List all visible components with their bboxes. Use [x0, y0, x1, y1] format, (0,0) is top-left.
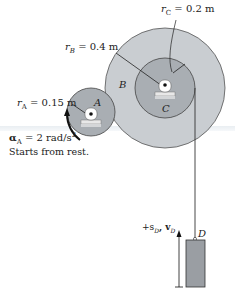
gear-c-label: C [162, 104, 170, 114]
start-note: Starts from rest. [9, 147, 89, 157]
radius-a-value: = 0.15 m [30, 97, 76, 108]
block-d-label: D [198, 229, 206, 239]
radius-b-value: = 0.4 m [78, 41, 118, 52]
radius-a-label: rA = 0.15 m [17, 98, 77, 111]
radius-c-label: rC = 0.2 m [161, 4, 214, 17]
gear-b-label: B [119, 80, 126, 90]
radius-b-sub: B [70, 47, 75, 55]
radius-c-value: = 0.2 m [174, 3, 214, 14]
direction-sep: , v [159, 222, 171, 232]
block-d [186, 240, 205, 287]
direction-symbol: +s [142, 222, 154, 232]
alpha-value: = 2 rad/s [25, 132, 72, 143]
gear-a-label: A [94, 98, 101, 108]
direction-label: +sD, vD [142, 223, 175, 234]
alpha-exp: 2 [72, 131, 76, 139]
direction-arrowhead-icon [177, 230, 182, 237]
radius-a-sub: A [22, 103, 27, 111]
radius-c-sub: C [166, 9, 171, 17]
radius-b-label: rB = 0.4 m [65, 42, 118, 55]
direction-sub2: D [170, 227, 175, 234]
alpha-label: αA = 2 rad/s2 [9, 132, 76, 146]
alpha-symbol: α [9, 132, 17, 143]
